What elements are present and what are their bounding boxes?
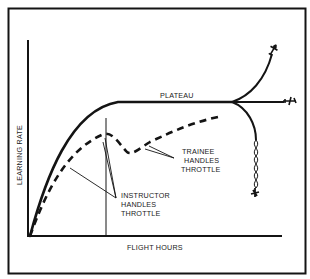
upward-branch — [232, 54, 272, 102]
x-axis-label: FLIGHT HOURS — [127, 243, 183, 252]
airplane-climbing-icon — [267, 43, 280, 57]
diagram-frame — [9, 9, 306, 274]
airplane-level-icon — [283, 97, 296, 105]
instructor-label-line3: THROTTLE — [121, 209, 161, 218]
instructor-label-line2: HANDLES — [121, 200, 156, 209]
airplane-spin-crash-icon — [251, 140, 259, 197]
trainee-label-line1: TRAINEE — [182, 147, 215, 156]
dashed-learning-curve — [30, 117, 218, 236]
y-axis-label: LEARNING RATE — [15, 125, 24, 185]
instructor-label-line1: INSTRUCTOR — [121, 191, 170, 200]
learning-rate-diagram: PLATEAU TRAINEE HANDLES THROTTLE INSTRUC… — [0, 0, 310, 279]
plateau-label: PLATEAU — [160, 91, 194, 100]
trainee-label-line3: THROTTLE — [181, 165, 221, 174]
trainee-leader-lines — [145, 146, 174, 158]
trainee-label-line2: HANDLES — [184, 156, 219, 165]
instructor-leader-lines — [70, 138, 116, 198]
downward-branch — [232, 102, 256, 140]
